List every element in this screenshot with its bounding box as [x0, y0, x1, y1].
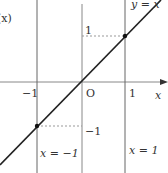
- tick-x-neg-one: −1: [22, 87, 38, 100]
- x-axis-arrow-icon: [160, 79, 168, 85]
- label-x-one: x = 1: [129, 144, 158, 157]
- graph-canvas: (x) y = x 1 −1 O 1 x −1 x = −1 x = 1: [0, 0, 168, 173]
- x-axis-label: x: [155, 89, 162, 102]
- tick-y-neg-one: −1: [85, 125, 101, 138]
- origin-label: O: [86, 87, 95, 100]
- title-fragment: (x): [0, 12, 12, 25]
- label-y-equals-x: y = x: [130, 0, 160, 11]
- tick-x-one: 1: [129, 87, 136, 100]
- label-x-neg-one: x = −1: [40, 147, 79, 160]
- point-one-one: [123, 34, 127, 38]
- tick-y-one: 1: [85, 24, 92, 37]
- point-neg-one-neg-one: [35, 124, 39, 128]
